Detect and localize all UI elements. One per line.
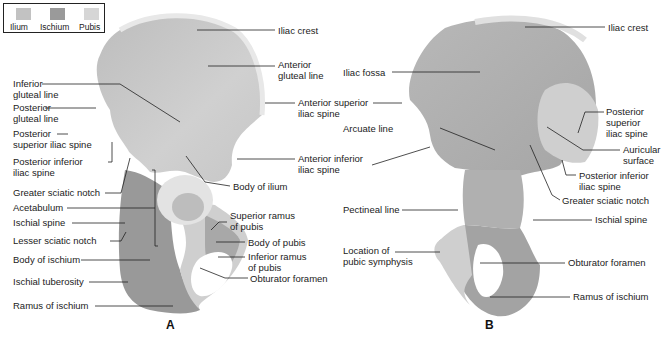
legend-swatch-ilium xyxy=(16,8,31,20)
label-a-ischial-tuberosity: Ischial tuberosity xyxy=(13,276,84,287)
label-a-posterior-superior-iliac-spine-2: superior iliac spine xyxy=(13,139,92,150)
label-a-inferior-ramus-of-pubis-1: Inferior ramus xyxy=(248,251,307,262)
label-a-greater-sciatic-notch: Greater sciatic notch xyxy=(13,187,100,198)
label-a-lesser-sciatic-notch: Lesser sciatic notch xyxy=(13,235,96,246)
label-b-iliac-fossa: Iliac fossa xyxy=(343,67,385,78)
label-b-obturator-foramen: Obturator foramen xyxy=(568,257,646,268)
label-a-iliac-crest: Iliac crest xyxy=(278,25,318,36)
label-b-auricular-surface-1: Auricular xyxy=(623,144,661,155)
label-a-posterior-superior-iliac-spine-1: Posterior xyxy=(13,128,51,139)
label-b-location-of-pubic-symphysis-2: pubic symphysis xyxy=(343,256,413,267)
label-a-obturator-foramen: Obturator foramen xyxy=(250,273,328,284)
label-a-ischial-spine: Ischial spine xyxy=(13,217,65,228)
panel-letter-a: A xyxy=(166,318,175,332)
label-a-inferior-gluteal-line-2: gluteal line xyxy=(13,89,58,100)
label-a-body-of-ilium: Body of ilium xyxy=(233,181,287,192)
label-a-superior-ramus-of-pubis-1: Superior ramus xyxy=(230,210,295,221)
label-a-posterior-inferior-iliac-spine-2: iliac spine xyxy=(13,167,55,178)
label-b-posterior-inferior-iliac-spine-1: Posterior inferior xyxy=(579,170,649,181)
legend-swatch-pubis xyxy=(84,8,99,20)
label-b-iliac-crest: Iliac crest xyxy=(608,22,648,33)
label-a-anterior-superior-iliac-spine-1: Anterior superior xyxy=(298,97,368,108)
legend-label-pubis: Pubis xyxy=(79,22,100,32)
label-b-arcuate-line: Arcuate line xyxy=(343,123,393,134)
label-a-posterior-gluteal-line-1: Posterior xyxy=(13,102,51,113)
legend: Ilium Ischium Pubis xyxy=(3,3,105,33)
label-a-anterior-inferior-iliac-spine-2: iliac spine xyxy=(298,164,340,175)
label-b-ischial-spine: Ischial spine xyxy=(595,214,647,225)
legend-label-ilium: Ilium xyxy=(10,22,28,32)
label-a-ramus-of-ischium: Ramus of ischium xyxy=(13,300,89,311)
label-a-acetabulum: Acetabulum xyxy=(13,202,63,213)
label-b-posterior-superior-iliac-spine-3: iliac spine xyxy=(606,128,648,139)
label-b-posterior-superior-iliac-spine-1: Posterior xyxy=(606,106,644,117)
label-b-pectineal-line: Pectineal line xyxy=(343,204,400,215)
label-b-greater-sciatic-notch: Greater sciatic notch xyxy=(562,195,649,206)
legend-label-ischium: Ischium xyxy=(40,22,69,32)
label-b-posterior-inferior-iliac-spine-2: iliac spine xyxy=(579,181,621,192)
label-b-posterior-superior-iliac-spine-2: superior xyxy=(606,117,640,128)
label-a-inferior-gluteal-line-1: Inferior xyxy=(13,78,43,89)
label-a-body-of-pubis: Body of pubis xyxy=(248,237,306,248)
label-a-superior-ramus-of-pubis-2: of pubis xyxy=(230,221,263,232)
label-b-auricular-surface-2: surface xyxy=(623,155,654,166)
panel-b-bone xyxy=(409,18,598,316)
label-a-body-of-ischium: Body of ischium xyxy=(13,254,80,265)
label-a-anterior-inferior-iliac-spine-1: Anterior inferior xyxy=(298,153,363,164)
label-b-location-of-pubic-symphysis-1: Location of xyxy=(343,245,389,256)
label-a-posterior-inferior-iliac-spine-1: Posterior inferior xyxy=(13,156,83,167)
legend-swatch-ischium xyxy=(50,8,65,20)
label-a-posterior-gluteal-line-2: gluteal line xyxy=(13,113,58,124)
label-a-anterior-gluteal-line-2: gluteal line xyxy=(278,70,323,81)
label-a-anterior-superior-iliac-spine-2: iliac spine xyxy=(298,108,340,119)
panel-letter-b: B xyxy=(485,318,494,332)
label-a-inferior-ramus-of-pubis-2: of pubis xyxy=(248,262,281,273)
label-b-ramus-of-ischium: Ramus of ischium xyxy=(573,291,649,302)
panel-a-bone xyxy=(97,16,263,314)
label-a-anterior-gluteal-line-1: Anterior xyxy=(278,59,311,70)
